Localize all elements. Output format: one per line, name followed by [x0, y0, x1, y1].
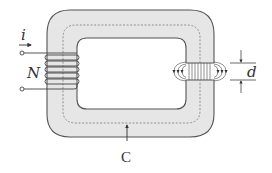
magnetic-circuit-diagram: i N d C: [0, 0, 272, 173]
gap-label: d: [247, 63, 257, 81]
path-label: C: [121, 149, 131, 165]
current-label: i: [21, 26, 26, 44]
magnetic-core: [47, 10, 215, 137]
turns-label: N: [26, 64, 41, 82]
